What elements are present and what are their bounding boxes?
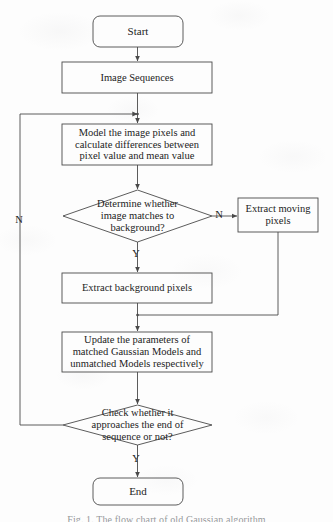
junction-dot-merge — [136, 314, 139, 317]
figure-caption: Fig. 1. The flow chart of old Gaussian a… — [0, 514, 333, 522]
node-label-image-sequences: Image Sequences — [62, 62, 212, 93]
node-label-extract-moving: Extract moving pixels — [238, 198, 318, 232]
node-label-end: End — [93, 478, 183, 505]
figure-flowchart: Start Image Sequences Model the image pi… — [0, 0, 333, 522]
edge-label-yes-match: Y — [130, 248, 142, 259]
node-label-check-end-of-sequence: Check whether it approaches the end of s… — [63, 401, 212, 449]
node-label-start: Start — [93, 16, 183, 47]
edge-label-no-end-of-sequence: N — [13, 214, 25, 225]
edge-label-yes-end-of-sequence: Y — [130, 453, 142, 464]
node-label-update-parameters: Update the parameters of matched Gaussia… — [62, 332, 212, 372]
edge-label-no-match: N — [213, 209, 225, 220]
junction-dot-feedback — [136, 113, 139, 116]
node-label-extract-background: Extract background pixels — [62, 273, 212, 303]
node-label-match-background: Determine whether image matches to backg… — [63, 190, 212, 242]
node-label-model-pixels: Model the image pixels and calculate dif… — [62, 124, 212, 165]
